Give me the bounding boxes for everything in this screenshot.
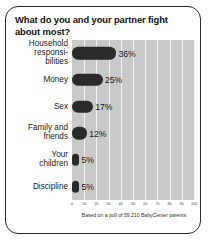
bar-wrapper: 12%: [72, 127, 194, 139]
x-tick-label: 40: [119, 202, 123, 206]
bar-chart: Household responsi-bilities36%Money25%Se…: [6, 40, 201, 234]
bar-row: Family andfriends12%: [6, 120, 201, 147]
x-tick-label: 90: [180, 202, 184, 206]
bar-value-label: 5%: [82, 182, 94, 192]
bar-value-label: 17%: [95, 102, 112, 112]
x-tick-label: 80: [168, 202, 172, 206]
bar-wrapper: 5%: [72, 180, 194, 192]
bar-rows: Household responsi-bilities36%Money25%Se…: [6, 40, 201, 200]
bar-value-label: 36%: [118, 48, 135, 58]
category-label: Family andfriends: [6, 125, 68, 142]
bar: [72, 180, 79, 192]
bar-value-label: 5%: [82, 155, 94, 165]
bar-wrapper: 36%: [72, 47, 194, 59]
x-tick-label: 60: [143, 202, 147, 206]
bar-wrapper: 5%: [72, 154, 194, 166]
x-tick-label: 50: [131, 202, 135, 206]
chart-card: What do you and your partner fight about…: [5, 6, 201, 234]
bar-row: Money25%: [6, 67, 201, 94]
category-label: Household responsi-bilities: [6, 40, 68, 66]
bar-row: Household responsi-bilities36%: [6, 40, 201, 67]
x-tick-label: 30: [107, 202, 111, 206]
bar: [72, 127, 87, 139]
chart-caption: Based on a poll of 59,210 BabyCenter par…: [72, 212, 196, 218]
x-tick-label: 20: [94, 202, 98, 206]
bar-row: Discipline5%: [6, 173, 201, 200]
category-label: Money: [6, 76, 68, 85]
bar-value-label: 25%: [105, 75, 122, 85]
category-label: Discipline: [6, 182, 68, 191]
bar: [72, 47, 116, 59]
x-axis: 0102030405060708090100: [72, 202, 194, 212]
category-label: Sex: [6, 102, 68, 111]
bar: [72, 100, 93, 112]
x-tick-label: 10: [82, 202, 86, 206]
bar-row: Yourchildren5%: [6, 147, 201, 174]
x-tick-label: 0: [71, 202, 73, 206]
bar-wrapper: 17%: [72, 100, 194, 112]
bar: [72, 154, 79, 166]
x-tick-label: 100: [191, 202, 197, 206]
bar-wrapper: 25%: [72, 74, 194, 86]
bar-row: Sex17%: [6, 93, 201, 120]
bar: [72, 74, 103, 86]
category-label: Yourchildren: [6, 151, 68, 168]
bar-value-label: 12%: [89, 128, 106, 138]
x-tick-label: 70: [155, 202, 159, 206]
chart-title: What do you and your partner fight about…: [15, 14, 191, 37]
